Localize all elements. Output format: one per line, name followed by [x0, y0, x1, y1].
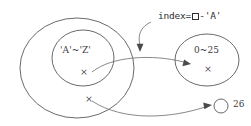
inner-left-set-label: 'A'~'Z': [60, 46, 91, 55]
index-formula-label: index=-'A': [158, 11, 221, 21]
right-set-label: 0~25: [194, 46, 219, 55]
index-formula-suffix: -'A': [199, 10, 221, 21]
right-set-member-mark: ×: [204, 64, 212, 74]
inner-left-member-mark: ×: [80, 67, 88, 77]
lone-circle-26-label: 26: [233, 100, 245, 109]
outer-left-member-mark: ×: [85, 94, 93, 104]
other-to-26-arrowhead: [203, 103, 212, 110]
lone-circle-26: [214, 99, 228, 113]
letter-to-index-arrowhead: [182, 60, 191, 67]
diagram-canvas: index=-'A' 'A'~'Z' × × 0~25 × 26: [0, 0, 251, 126]
other-to-26-curve: [92, 101, 205, 116]
inner-left-set-circle: [52, 30, 114, 86]
letter-to-index-curve: [92, 57, 184, 72]
outer-left-set-circle: [20, 18, 134, 118]
annotation-pointer-arrowhead: [137, 44, 144, 52]
empty-square-icon: [192, 13, 199, 20]
annotation-pointer-curve: [139, 22, 151, 45]
index-formula-prefix: index=: [158, 10, 191, 21]
